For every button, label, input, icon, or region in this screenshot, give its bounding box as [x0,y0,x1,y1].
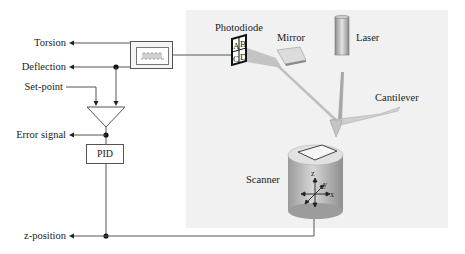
axis-x-label: x [330,189,334,201]
torsion-arrow-icon [69,41,74,46]
label-mirror: Mirror [277,32,305,44]
comparator-triangle [87,107,125,127]
label-cantilever: Cantilever [375,92,419,104]
signal-display-screen [136,47,169,65]
signal-display-box [130,41,173,69]
diagram-canvas [0,0,465,254]
label-set-point: Set-point [0,81,63,93]
deflection-down-arrow-icon [114,101,119,106]
label-z-position: z-position [0,230,66,242]
label-deflection: Deflection [0,61,66,73]
label-laser: Laser [356,32,379,44]
label-photodiode: Photodiode [215,22,263,34]
error-arrow-icon [69,133,74,138]
label-scanner: Scanner [246,174,280,186]
quadrant-a: A [233,40,240,52]
setpoint-arrow-icon [94,101,99,106]
quadrant-b: B [240,38,246,50]
label-error-signal: Error signal [0,129,66,141]
deflection-arrow-icon [69,65,74,70]
quadrant-d: D [240,51,247,63]
label-torsion: Torsion [0,37,66,49]
waveform-icon [137,48,168,64]
z-position-arrow-icon [69,234,74,239]
laser-body [335,17,349,55]
quadrant-c: C [233,53,239,65]
axis-z-label: z [311,168,315,180]
pid-controller: PID [86,144,124,164]
axis-y-label: y [323,179,327,191]
